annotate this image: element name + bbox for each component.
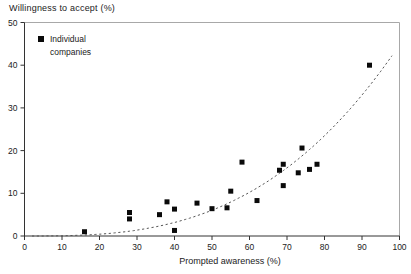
legend-label: Individual companies [50,33,91,59]
data-point [165,199,170,204]
data-point [281,183,286,188]
legend-label-line1: Individual [50,33,91,46]
data-point [277,168,282,173]
x-tick-label: 80 [320,242,330,252]
x-tick-label: 0 [22,242,27,252]
x-axis-label: Prompted awareness (%) [130,256,330,266]
data-point [225,205,230,210]
data-point [195,201,200,206]
data-point [210,206,215,211]
legend: Individual companies [38,33,91,59]
y-tick-label: 30 [8,103,18,113]
data-point [127,210,132,215]
data-point [82,229,87,234]
y-tick-label: 20 [8,146,18,156]
legend-square-marker-icon [38,36,44,42]
y-tick-label: 40 [8,60,18,70]
legend-label-line2: companies [50,46,91,59]
data-point [367,63,372,68]
x-tick-label: 50 [207,242,217,252]
data-point [300,146,305,151]
data-point [281,162,286,167]
data-point [127,216,132,221]
x-tick-label: 20 [95,242,105,252]
x-tick-label: 100 [392,242,406,252]
y-tick-label: 0 [13,231,18,241]
data-point [307,167,312,172]
y-tick-label: 50 [8,18,18,28]
x-tick-label: 60 [245,242,255,252]
x-tick-label: 90 [357,242,367,252]
x-tick-label: 10 [57,242,67,252]
scatter-chart: Willingness to accept (%) 01020304050010… [0,0,411,274]
y-tick-label: 10 [8,188,18,198]
data-point [315,162,320,167]
x-tick-label: 70 [282,242,292,252]
data-point [255,198,260,203]
data-point [296,170,301,175]
x-tick-label: 30 [132,242,142,252]
data-point [172,207,177,212]
data-point [157,212,162,217]
data-point [240,160,245,165]
x-tick-label: 40 [170,242,180,252]
data-point [172,228,177,233]
data-point [228,189,233,194]
